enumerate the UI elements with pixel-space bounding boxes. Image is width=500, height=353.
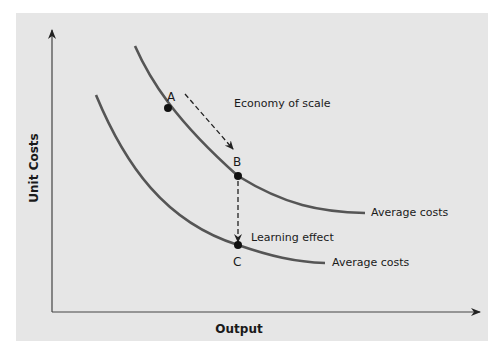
cost-curve-diagram: A B C Economy of scale Learning effect A… <box>0 0 500 353</box>
x-axis-label: Output <box>215 322 263 336</box>
upper-curve-label: Average costs <box>371 206 448 219</box>
lower-curve-label: Average costs <box>332 256 409 269</box>
point-b-label: B <box>233 155 241 169</box>
point-a-label: A <box>167 90 176 104</box>
point-b-marker <box>234 172 242 180</box>
economy-of-scale-label: Economy of scale <box>234 97 331 110</box>
point-c-marker <box>234 241 242 249</box>
y-axis-label: Unit Costs <box>27 133 41 202</box>
point-c-label: C <box>233 255 241 269</box>
learning-effect-label: Learning effect <box>251 231 334 244</box>
economy-of-scale-arrow <box>185 94 233 149</box>
upper-average-cost-curve <box>135 46 365 213</box>
point-a-marker <box>164 104 172 112</box>
